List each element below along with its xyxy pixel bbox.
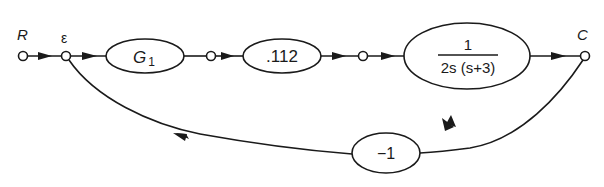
node-mid-1 <box>207 52 216 61</box>
block-feedback-label: −1 <box>377 145 395 162</box>
arrow-icon <box>381 52 395 60</box>
node-c-label: C <box>577 26 588 43</box>
edge-feedback-to-e <box>69 60 352 154</box>
node-mid-2 <box>359 52 368 61</box>
node-r-label: R <box>17 26 28 43</box>
arrow-icon <box>332 52 346 60</box>
block-plant-denominator: 2s (s+3) <box>441 59 496 76</box>
arrow-icon <box>38 52 52 60</box>
block-plant-numerator: 1 <box>464 36 472 53</box>
node-c <box>581 52 590 61</box>
signal-flow-diagram: R ε C G1 .112 1 2s (s+3) −1 <box>0 0 604 187</box>
arrow-icon <box>221 52 234 60</box>
block-gain-label: .112 <box>266 47 298 66</box>
arrow-icon <box>173 133 187 141</box>
node-e <box>62 52 71 61</box>
arrow-icon <box>82 52 97 60</box>
node-r <box>19 52 28 61</box>
block-g1-label: G1 <box>133 48 155 69</box>
arrow-icon <box>551 52 566 60</box>
node-e-label: ε <box>61 30 67 46</box>
block-plant <box>404 23 530 89</box>
